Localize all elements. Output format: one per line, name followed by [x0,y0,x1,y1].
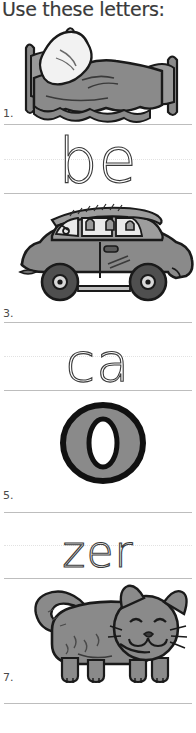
writing-block-1[interactable]: be [0,124,196,194]
cat-illustration [22,580,192,690]
picture-block-5: 5. [0,395,196,512]
item-number-7: 7. [3,672,14,683]
writing-block-2[interactable]: ca [0,322,196,391]
writing-block-4[interactable] [0,703,196,733]
picture-block-3: 3. [0,200,196,322]
item-number-5: 5. [3,490,14,501]
item-number-1: 1. [3,108,14,119]
answer-text-2: ca [0,336,196,390]
rule-line-top [4,703,192,704]
page-title: Use these letters: [2,0,196,20]
writing-block-3[interactable]: zer [0,512,196,579]
answer-text-3: zer [0,530,196,574]
rule-line-top [4,322,192,323]
answer-text-1: be [0,130,196,192]
letter-o-illustration [58,401,148,485]
car-illustration [8,202,194,306]
worksheet-page: Use these letters: [0,0,196,733]
picture-block-7: 7. [0,578,196,703]
bed-illustration [16,22,194,122]
item-number-3: 3. [3,308,14,319]
picture-block-1: 1. [0,22,196,124]
rule-line-top [4,512,192,513]
